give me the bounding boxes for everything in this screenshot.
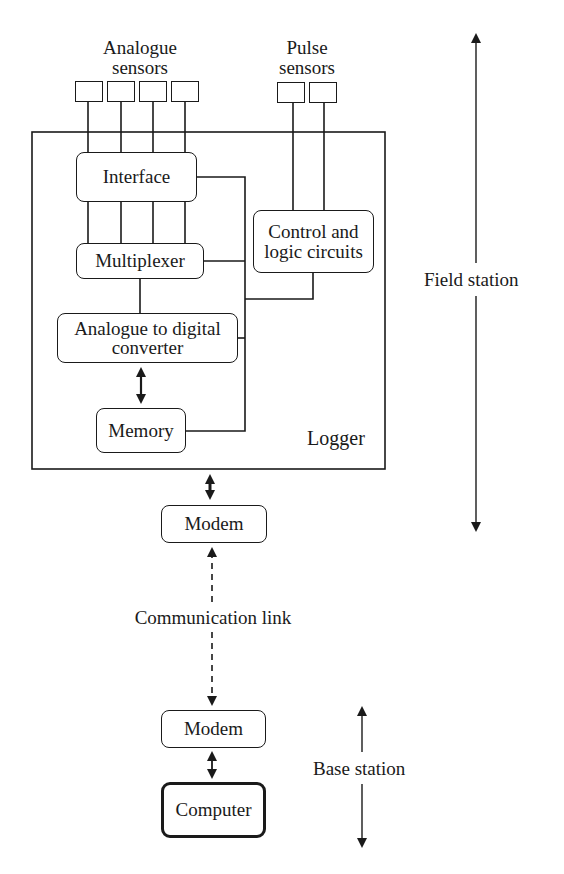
- analogue-sensor-4: [171, 81, 199, 102]
- logger-label: Logger: [296, 428, 376, 448]
- pulse-sensor-1: [277, 82, 305, 103]
- analogue-sensors-label: Analogue sensors: [85, 38, 195, 78]
- pulse-sensor-2: [309, 82, 337, 103]
- base-modem-block: Modem: [161, 710, 266, 748]
- control-logic-block: Control and logic circuits: [253, 210, 374, 273]
- memory-block: Memory: [96, 408, 186, 453]
- field-station-label: Field station: [424, 267, 518, 293]
- interface-block: Interface: [76, 152, 197, 202]
- base-station-label: Base station: [313, 756, 405, 782]
- communication-link-label: Communication link: [110, 608, 316, 628]
- multiplexer-block: Multiplexer: [76, 243, 204, 279]
- field-modem-block: Modem: [161, 505, 267, 543]
- adc-block: Analogue to digital converter: [57, 313, 238, 363]
- analogue-sensor-3: [139, 81, 167, 102]
- diagram-connectors: [0, 0, 564, 874]
- computer-block: Computer: [161, 782, 266, 838]
- analogue-sensor-1: [75, 81, 103, 102]
- analogue-sensor-2: [107, 81, 135, 102]
- pulse-sensors-label: Pulse sensors: [262, 38, 352, 78]
